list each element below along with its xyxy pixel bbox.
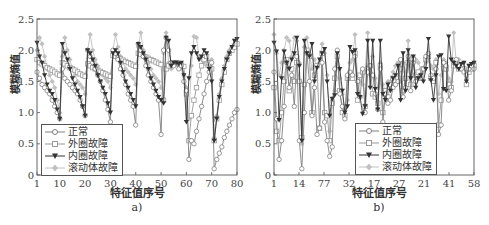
- x-tick-label: 1: [271, 178, 277, 189]
- legend-item-inner-race: 内圈故障: [359, 149, 433, 161]
- y-tick-label: 0.5: [255, 138, 271, 149]
- y-tick-label: 2.5: [255, 14, 271, 25]
- legend-label: 外圈故障: [68, 138, 108, 150]
- x-tick-label: 10: [53, 178, 66, 189]
- caption-a: a): [107, 201, 167, 214]
- diamond-marker-icon: [359, 162, 379, 172]
- legend-b: 正常 外圈故障 内圈故障 滚动体故障: [355, 123, 437, 175]
- legend-label: 内圈故障: [382, 149, 422, 161]
- x-tick-label: 80: [231, 178, 244, 189]
- legend-a: 正常 外圈故障 内圈故障 滚动体故障: [41, 124, 123, 176]
- circle-marker-icon: [45, 127, 65, 137]
- triangle-down-marker-icon: [359, 150, 379, 160]
- chart-panel-b: 00.51.01.52.02.511477321727214158 模糊熵值 特…: [244, 0, 489, 225]
- diamond-marker-icon: [45, 163, 65, 173]
- x-tick-label: 1: [34, 178, 40, 189]
- y-tick-label: 1.0: [255, 107, 271, 118]
- x-tick-label: 41: [443, 178, 456, 189]
- legend-item-normal: 正常: [359, 125, 433, 137]
- legend-item-normal: 正常: [45, 126, 119, 138]
- legend-item-outer-race: 外圈故障: [45, 138, 119, 150]
- legend-label: 正常: [68, 126, 88, 138]
- y-tick-label: 1.0: [18, 107, 34, 118]
- x-tick-label: 70: [205, 178, 218, 189]
- y-tick-label: 0.5: [18, 138, 34, 149]
- square-marker-icon: [45, 139, 65, 149]
- legend-label: 滚动体故障: [68, 162, 118, 174]
- triangle-down-marker-icon: [45, 151, 65, 161]
- x-tick-label: 14: [293, 178, 306, 189]
- legend-item-rolling-element: 滚动体故障: [359, 161, 433, 173]
- y-axis-label-b: 模糊熵值: [248, 44, 263, 104]
- legend-label: 滚动体故障: [382, 161, 432, 173]
- legend-label: 外圈故障: [382, 137, 422, 149]
- x-axis-label-b: 特征值序号: [319, 184, 439, 200]
- legend-label: 正常: [382, 125, 402, 137]
- legend-label: 内圈故障: [68, 150, 108, 162]
- x-tick-label: 58: [468, 178, 481, 189]
- y-axis-label-a: 模糊熵值: [7, 44, 22, 104]
- x-axis-label-a: 特征值序号: [77, 184, 197, 200]
- legend-item-outer-race: 外圈故障: [359, 137, 433, 149]
- chart-panel-a: 00.51.01.52.02.511020304050607080 模糊熵值 特…: [0, 0, 245, 225]
- circle-marker-icon: [359, 126, 379, 136]
- y-tick-label: 2.5: [18, 14, 34, 25]
- legend-item-inner-race: 内圈故障: [45, 150, 119, 162]
- legend-item-rolling-element: 滚动体故障: [45, 162, 119, 174]
- caption-b: b): [349, 201, 409, 214]
- square-marker-icon: [359, 138, 379, 148]
